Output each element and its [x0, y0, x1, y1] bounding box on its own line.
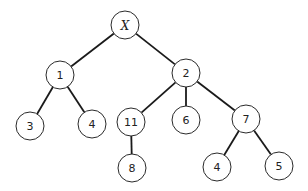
tree-edge — [68, 87, 85, 113]
tree-node: 1 — [46, 61, 74, 89]
tree-edge — [37, 87, 53, 114]
tree-node: 3 — [16, 112, 44, 140]
tree-edge — [136, 34, 175, 65]
tree-node: 5 — [265, 152, 293, 180]
tree-node: 2 — [172, 59, 200, 87]
node-label: 3 — [27, 120, 34, 133]
tree-edge — [224, 131, 239, 155]
tree-node: 4 — [78, 110, 106, 138]
tree-edge — [141, 82, 175, 112]
node-label: 4 — [89, 118, 96, 131]
tree-node: 6 — [172, 106, 200, 134]
tree-edge — [254, 130, 271, 154]
node-label: 5 — [276, 160, 283, 173]
tree-nodes: X12341167845 — [16, 11, 293, 182]
node-label: 7 — [243, 113, 250, 126]
tree-node: X — [111, 11, 139, 39]
node-label: 2 — [183, 67, 190, 80]
tree-node: 7 — [232, 105, 260, 133]
node-label: 1 — [57, 69, 64, 82]
tree-node: 11 — [117, 108, 145, 136]
node-label: 6 — [183, 114, 190, 127]
node-label: X — [120, 19, 130, 33]
tree-edge — [71, 34, 114, 67]
node-label: 11 — [124, 116, 138, 129]
node-label: 4 — [214, 161, 221, 174]
tree-node: 8 — [118, 154, 146, 182]
node-label: 8 — [129, 162, 136, 175]
tree-diagram: X12341167845 — [0, 0, 308, 191]
tree-edges — [37, 34, 271, 155]
tree-edge — [197, 82, 235, 111]
tree-node: 4 — [203, 153, 231, 181]
